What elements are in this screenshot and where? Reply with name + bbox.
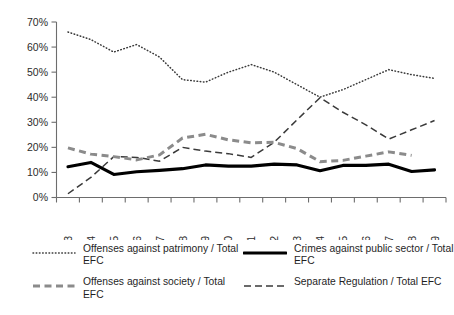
x-tick-label: 2006 (360, 236, 372, 240)
x-tick-label: 1995 (108, 236, 120, 240)
legend-swatch-dashed-thick-icon (32, 279, 76, 293)
legend-item[interactable]: Offenses against patrimony / Total EFC (32, 243, 242, 267)
series-line-dashed-thick (68, 134, 412, 161)
x-tick-label: 1999 (199, 236, 211, 240)
legend-column-right: Crimes against public sector / Total EFC… (243, 243, 454, 299)
legend-column-left: Offenses against patrimony / Total EFCOf… (32, 243, 242, 310)
x-tick-label: 2002 (268, 236, 280, 240)
series-line-dashed-thin (68, 98, 435, 194)
y-tick-label: 40% (27, 91, 48, 103)
y-tick-group (52, 22, 57, 198)
series-line-solid-thick (68, 162, 435, 174)
x-axis: 1993199419951996199719981999200020012002… (57, 198, 447, 241)
legend-item[interactable]: Offenses against society / Total EFC (32, 276, 242, 300)
legend-label: Crimes against public sector / Total EFC (294, 243, 454, 267)
y-axis: 0%10%20%30%40%50%60%70% (27, 16, 57, 204)
x-tick-label: 1994 (85, 236, 97, 240)
y-tick-label: 20% (27, 141, 48, 153)
legend-item[interactable]: Crimes against public sector / Total EFC (243, 243, 454, 267)
x-tick-label: 2007 (383, 236, 395, 240)
legend-swatch-dashed-thin-icon (243, 279, 287, 293)
x-tick-label: 2000 (222, 236, 234, 240)
y-tick-labels: 0%10%20%30%40%50%60%70% (27, 16, 48, 204)
x-tick-label: 1996 (131, 236, 143, 240)
y-tick-label: 60% (27, 41, 48, 53)
x-tick-labels: 1993199419951996199719981999200020012002… (62, 236, 441, 240)
y-tick-label: 10% (27, 166, 48, 178)
line-chart-svg: 0%10%20%30%40%50%60%70% 1993199419951996… (0, 0, 454, 240)
legend-item[interactable]: Separate Regulation / Total EFC (243, 276, 454, 290)
x-tick-label: 2005 (337, 236, 349, 240)
y-tick-label: 70% (27, 16, 48, 28)
x-tick-label: 2004 (314, 236, 326, 240)
x-tick-label: 2008 (406, 236, 418, 240)
chart-legend: Offenses against patrimony / Total EFCOf… (0, 243, 454, 315)
legend-swatch-solid-thick-icon (243, 246, 287, 260)
legend-label: Separate Regulation / Total EFC (294, 276, 442, 288)
x-tick-label: 1997 (154, 236, 166, 240)
x-tick-label: 2003 (291, 236, 303, 240)
x-tick-group (57, 198, 447, 203)
chart-figure: 0%10%20%30%40%50%60%70% 1993199419951996… (0, 0, 454, 315)
plot-area: 0%10%20%30%40%50%60%70% 1993199419951996… (0, 0, 454, 240)
x-tick-label: 1993 (62, 236, 74, 240)
series-line-dotted (68, 32, 435, 97)
series-group (68, 32, 435, 194)
legend-label: Offenses against patrimony / Total EFC (83, 243, 242, 267)
x-tick-label: 2001 (245, 236, 257, 240)
x-tick-label: 2009 (429, 236, 441, 240)
y-tick-label: 30% (27, 116, 48, 128)
y-tick-label: 50% (27, 66, 48, 78)
legend-label: Offenses against society / Total EFC (83, 276, 242, 300)
x-tick-label: 1998 (177, 236, 189, 240)
y-tick-label: 0% (33, 191, 48, 203)
legend-swatch-dotted-icon (32, 246, 76, 260)
